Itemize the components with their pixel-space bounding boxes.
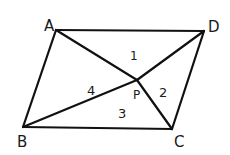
region-label-4: 4: [87, 83, 95, 98]
segment-ap: [56, 30, 137, 80]
vertex-label-a: A: [44, 17, 55, 35]
region-label-1: 1: [130, 49, 138, 63]
vertex-label-p: P: [133, 88, 140, 102]
side-ad: [56, 30, 204, 31]
parallelogram-diagram: A D B C P 1 2 3 4: [0, 0, 230, 155]
region-label-2: 2: [159, 85, 167, 100]
vertex-label-c: C: [174, 133, 184, 151]
side-cb: [23, 127, 172, 129]
region-label-3: 3: [118, 106, 126, 121]
side-ba: [23, 30, 56, 127]
side-dc: [172, 31, 204, 129]
vertex-label-d: D: [208, 18, 220, 36]
vertex-label-b: B: [17, 133, 27, 151]
segment-pd: [137, 31, 204, 80]
